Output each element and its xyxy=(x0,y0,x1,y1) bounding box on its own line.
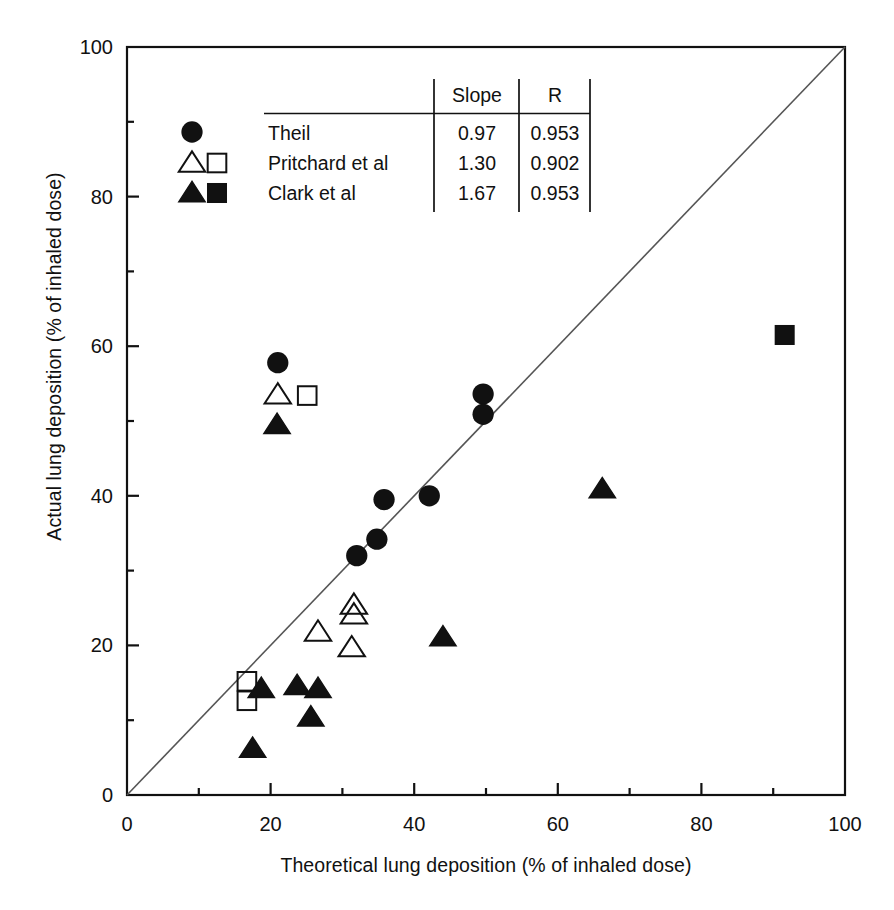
data-point xyxy=(248,677,274,697)
scatter-plot-canvas xyxy=(0,0,894,910)
legend-row-1-label: Theil xyxy=(268,122,310,145)
x-axis-title: Theoretical lung deposition (% of inhale… xyxy=(127,854,845,877)
y-tick-label-80: 80 xyxy=(53,185,113,208)
data-point xyxy=(472,383,493,404)
y-tick-label-0: 0 xyxy=(53,784,113,807)
data-point xyxy=(430,626,456,646)
x-tick-label-0: 0 xyxy=(121,813,132,836)
legend-row-2-label: Pritchard et al xyxy=(268,152,388,175)
x-tick-label-40: 40 xyxy=(403,813,425,836)
x-tick-label-100: 100 xyxy=(828,813,861,836)
legend-row-3-r: 0.953 xyxy=(531,182,580,205)
data-point xyxy=(339,636,365,656)
data-point xyxy=(264,413,290,433)
y-tick-label-100: 100 xyxy=(53,36,113,59)
data-point xyxy=(267,352,288,373)
data-point xyxy=(346,545,367,566)
legend-symbol-filled-square xyxy=(208,184,227,203)
data-point xyxy=(284,674,310,694)
legend-row-1-slope: 0.97 xyxy=(458,122,496,145)
legend-col-slope: Slope xyxy=(452,84,502,107)
legend-col-r: R xyxy=(548,84,562,107)
y-tick-label-20: 20 xyxy=(53,634,113,657)
data-point xyxy=(265,383,291,403)
y-tick-label-40: 40 xyxy=(53,484,113,507)
chart-figure: Actual lung deposition (% of inhaled dos… xyxy=(0,0,894,910)
legend-symbol-filled-circle xyxy=(181,121,202,142)
x-tick-label-80: 80 xyxy=(690,813,712,836)
legend-row-2-slope: 1.30 xyxy=(458,152,496,175)
legend-symbol-open-square xyxy=(208,154,227,173)
data-point xyxy=(775,326,794,345)
legend-row-2-r: 0.902 xyxy=(531,152,580,175)
data-point xyxy=(419,485,440,506)
data-point xyxy=(366,529,387,550)
legend-symbol-open-triangle xyxy=(179,151,205,171)
y-tick-label-60: 60 xyxy=(53,335,113,358)
x-tick-label-20: 20 xyxy=(259,813,281,836)
legend-row-3-label: Clark et al xyxy=(268,182,356,205)
data-point xyxy=(472,404,493,425)
legend-symbol-filled-triangle xyxy=(179,181,205,201)
data-point xyxy=(589,477,615,497)
data-point xyxy=(373,489,394,510)
data-point xyxy=(305,620,331,640)
data-point xyxy=(239,737,265,757)
legend-row-3-slope: 1.67 xyxy=(458,182,496,205)
x-tick-label-60: 60 xyxy=(547,813,569,836)
data-point xyxy=(298,386,317,405)
data-point xyxy=(298,706,324,726)
legend-row-1-r: 0.953 xyxy=(531,122,580,145)
legend-symbols xyxy=(179,121,227,202)
data-point xyxy=(238,672,257,691)
data-point xyxy=(305,677,331,697)
